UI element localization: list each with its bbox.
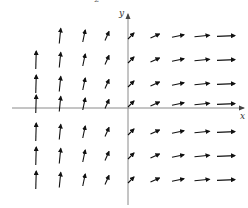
vector-arrow — [83, 78, 86, 90]
vector-arrow — [151, 102, 160, 106]
vector-arrow — [105, 100, 109, 109]
vector-field-figure: 2 x y — [0, 0, 248, 208]
vector-arrow — [128, 81, 134, 87]
vector-arrow — [217, 180, 235, 181]
vector-arrow — [195, 35, 210, 37]
vector-arrow — [217, 156, 235, 157]
vector-arrow — [195, 83, 210, 85]
vector-arrow — [83, 54, 86, 66]
vector-arrow — [83, 150, 86, 162]
vector-arrow — [105, 152, 109, 161]
vector-arrow — [59, 29, 61, 44]
vector-arrow — [36, 123, 37, 141]
vector-arrow — [128, 57, 134, 63]
cropped-caption-fragment: 2 — [94, 0, 99, 4]
vector-arrow — [83, 126, 86, 138]
vector-arrow — [128, 177, 134, 183]
vector-arrow — [105, 128, 109, 137]
vector-arrow — [128, 129, 134, 135]
y-axis-label: y — [119, 8, 124, 18]
vector-arrow — [59, 173, 61, 188]
vector-arrow — [105, 56, 109, 65]
vector-arrow — [36, 51, 37, 69]
vector-field-plot — [0, 0, 248, 208]
vector-arrow — [128, 153, 134, 159]
vector-arrow — [128, 33, 134, 39]
vector-arrow — [195, 155, 210, 157]
vector-arrow — [195, 131, 210, 133]
vector-arrow — [36, 95, 37, 113]
vector-arrow — [151, 154, 160, 158]
vector-arrow — [217, 84, 235, 85]
vector-arrow — [105, 80, 109, 89]
vector-arrow — [172, 155, 184, 158]
vector-arrow — [172, 35, 184, 38]
vector-arrow — [59, 125, 61, 140]
vector-arrow — [195, 179, 210, 181]
vector-arrow — [151, 34, 160, 38]
vector-arrow — [217, 60, 235, 61]
vector-arrow — [217, 36, 235, 37]
vector-arrow — [83, 30, 86, 42]
vector-arrow — [172, 103, 184, 106]
vector-arrows — [36, 29, 235, 190]
vector-arrow — [59, 53, 61, 68]
vector-arrow — [105, 32, 109, 41]
vector-arrow — [59, 149, 61, 164]
vector-arrow — [195, 59, 210, 61]
vector-arrow — [151, 82, 160, 86]
vector-arrow — [36, 147, 37, 165]
vector-arrow — [151, 130, 160, 134]
vector-arrow — [195, 103, 210, 105]
vector-arrow — [217, 104, 235, 105]
vector-arrow — [105, 176, 109, 185]
vector-arrow — [36, 75, 37, 93]
vector-arrow — [36, 171, 37, 189]
vector-arrow — [172, 131, 184, 134]
vector-arrow — [172, 179, 184, 182]
vector-arrow — [217, 132, 235, 133]
vector-arrow — [151, 58, 160, 62]
vector-arrow — [59, 97, 61, 112]
vector-arrow — [151, 178, 160, 182]
vector-arrow — [59, 77, 61, 92]
vector-arrow — [172, 83, 184, 86]
vector-arrow — [83, 174, 86, 186]
axes — [12, 14, 244, 205]
x-axis-label: x — [240, 111, 245, 121]
vector-arrow — [172, 59, 184, 62]
vector-arrow — [128, 101, 134, 107]
